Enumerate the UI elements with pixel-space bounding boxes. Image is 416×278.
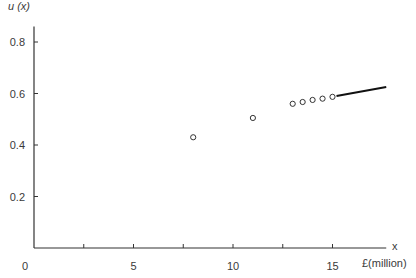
data-point: [320, 96, 325, 101]
data-point: [300, 99, 305, 104]
data-point: [310, 97, 315, 102]
x-tick-label: 0: [22, 260, 28, 272]
data-point: [250, 115, 255, 120]
x-axis-label: x: [392, 240, 398, 252]
x-axis-unit-label: £(million): [362, 257, 407, 269]
y-tick-label: 0.4: [10, 139, 25, 151]
y-tick-label: 0.8: [10, 36, 25, 48]
data-point: [330, 94, 335, 99]
data-point: [191, 135, 196, 140]
y-axis-label: u (x): [8, 0, 30, 12]
data-point: [290, 101, 295, 106]
plot-area: 0.20.40.60.8051015: [0, 0, 416, 278]
utility-chart: 0.20.40.60.8051015: [0, 0, 416, 278]
x-tick-label: 5: [130, 260, 136, 272]
y-tick-label: 0.2: [10, 191, 25, 203]
utility-line: [336, 87, 386, 96]
y-tick-label: 0.6: [10, 88, 25, 100]
x-tick-label: 15: [326, 260, 338, 272]
x-tick-label: 10: [227, 260, 239, 272]
